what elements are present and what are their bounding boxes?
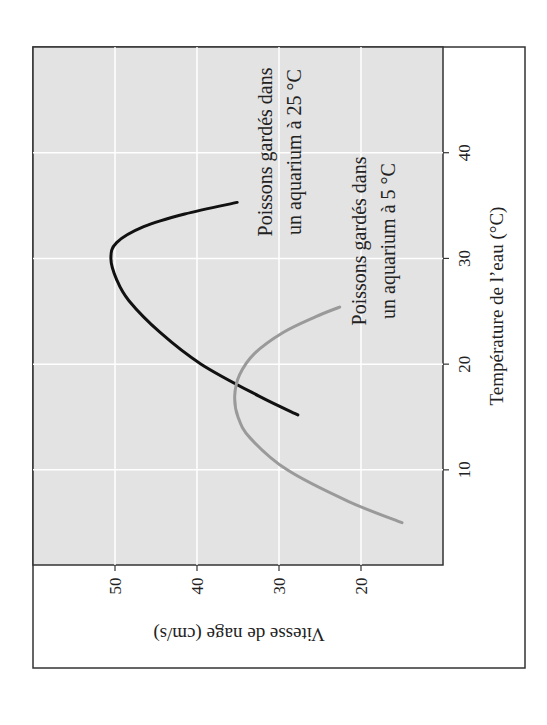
x-axis-title-text: Température de l’eau (°C) xyxy=(486,207,508,406)
tick-label-speed-text: 20 xyxy=(352,578,371,595)
tick-label-temp-text: 10 xyxy=(455,461,474,478)
tick-label-speed-text: 50 xyxy=(106,578,125,595)
chart: 1020304020304050 Température de l’eau (°… xyxy=(0,0,547,725)
tick-label-temp-text: 20 xyxy=(455,356,474,373)
tick-label-temp-20: 20 xyxy=(455,356,474,373)
tick-label-temp-text: 40 xyxy=(455,144,474,161)
tick-label-speed-text: 40 xyxy=(188,578,207,595)
y-axis-title: Vitesse de nage (cm/s) xyxy=(153,623,324,645)
tick-label-speed-30: 30 xyxy=(270,578,289,595)
tick-label-speed-text: 30 xyxy=(270,578,289,595)
tick-label-speed-50: 50 xyxy=(106,578,125,595)
tick-label-temp-text: 30 xyxy=(455,250,474,267)
tick-label-speed-20: 20 xyxy=(352,578,371,595)
y-axis-title-text: Vitesse de nage (cm/s) xyxy=(153,623,324,645)
annotation-25c-line1: Poissons gardés dans xyxy=(254,67,277,236)
annotation-5c-line1: Poissons gardés dans xyxy=(348,156,371,325)
tick-label-speed-40: 40 xyxy=(188,578,207,595)
tick-label-temp-40: 40 xyxy=(455,144,474,161)
tick-label-temp-30: 30 xyxy=(455,250,474,267)
annotation-25c-line2: un aquarium à 25 °C xyxy=(283,69,306,235)
annotation-5c-line2: un aquarium à 5 °C xyxy=(377,163,400,319)
tick-label-temp-10: 10 xyxy=(455,461,474,478)
x-axis-title: Température de l’eau (°C) xyxy=(486,207,508,406)
